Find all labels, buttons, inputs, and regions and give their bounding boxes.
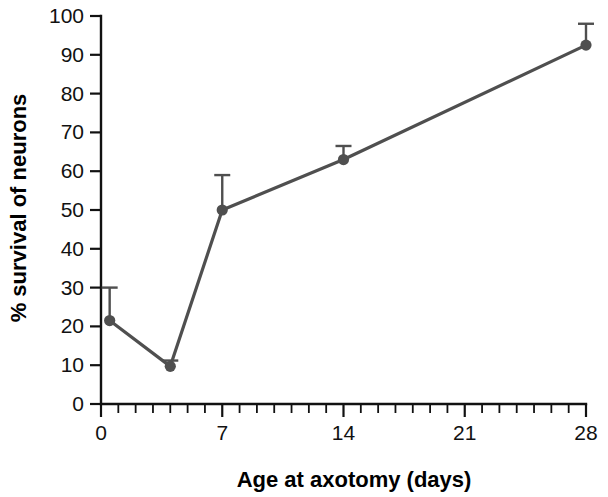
y-tick-label: 10 (61, 353, 84, 376)
chart-figure: 0102030405060708090100 07142128 Age at a… (0, 0, 608, 497)
y-tick-label: 80 (61, 82, 84, 105)
y-tick-label: 40 (61, 237, 84, 260)
x-tick-label: 21 (453, 421, 476, 444)
x-axis-tick-labels: 07142128 (95, 421, 598, 444)
data-point-marker (217, 204, 228, 215)
chart-canvas: 0102030405060708090100 07142128 Age at a… (0, 0, 608, 497)
data-point-marker (104, 315, 115, 326)
data-point-marker (580, 40, 591, 51)
x-tick-label: 14 (332, 421, 356, 444)
y-tick-label: 90 (61, 43, 84, 66)
series-polyline (110, 45, 586, 366)
x-axis-title: Age at axotomy (days) (237, 467, 472, 492)
data-point-markers (104, 40, 592, 372)
y-tick-label: 30 (61, 276, 84, 299)
y-axis-title: % survival of neurons (6, 94, 31, 323)
data-point-marker (165, 361, 176, 372)
x-tick-label: 7 (216, 421, 228, 444)
x-axis-ticks (101, 404, 586, 417)
y-tick-label: 20 (61, 314, 84, 337)
y-tick-label: 50 (61, 198, 84, 221)
x-tick-label: 28 (574, 421, 597, 444)
data-point-marker (338, 154, 349, 165)
y-tick-label: 70 (61, 120, 84, 143)
y-tick-label: 0 (72, 392, 84, 415)
x-tick-label: 0 (95, 421, 107, 444)
y-axis-ticks (90, 16, 101, 404)
axis-frame (101, 16, 586, 404)
y-tick-label: 60 (61, 159, 84, 182)
data-series-line (110, 45, 586, 366)
y-axis-tick-labels: 0102030405060708090100 (49, 4, 84, 415)
y-tick-label: 100 (49, 4, 84, 27)
